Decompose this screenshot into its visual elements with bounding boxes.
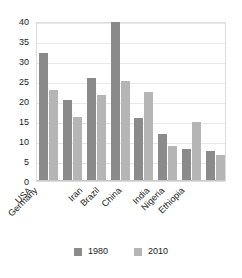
legend-label: 2010 [148,247,168,256]
bar-group [156,23,180,181]
bar [87,78,96,181]
bar [39,53,48,181]
y-tick-label: 20 [19,98,29,107]
bar [158,134,167,181]
y-tick-label: 40 [19,18,29,27]
y-tick-label: 10 [19,138,29,147]
y-tick-label: 5 [24,158,29,167]
chart-legend: 19802010 [0,247,242,256]
y-tick-label: 15 [19,118,29,127]
legend-item[interactable]: 2010 [134,247,168,256]
bar-group [61,23,85,181]
bar-group [37,23,61,181]
plot-area [36,22,226,182]
bar [216,155,225,181]
legend-label: 1980 [88,247,108,256]
y-tick-label: 30 [19,58,29,67]
bar [134,118,143,181]
x-axis-baseline [37,180,225,181]
legend-item[interactable]: 1980 [74,247,108,256]
bar [121,81,130,181]
x-tick-label: China [101,186,124,209]
bar-group [180,23,204,181]
bar [182,149,191,181]
bar [144,92,153,181]
bar-group [203,23,227,181]
y-tick-label: 25 [19,78,29,87]
y-axis: 0510152025303540 [0,22,32,182]
legend-swatch-icon [74,248,82,256]
bar [97,95,106,181]
bar [63,100,72,181]
bar [73,117,82,181]
bar-group [132,23,156,181]
y-tick-label: 35 [19,38,29,47]
bar-chart: 0510152025303540 USAGermanyIranBrazilChi… [0,0,242,278]
bar [192,122,201,181]
bar [206,151,215,181]
bar-group [85,23,109,181]
bar-group [108,23,132,181]
bar [49,90,58,181]
legend-swatch-icon [134,248,142,256]
x-axis: USAGermanyIranBrazilChinaIndiaNigeriaEth… [36,182,226,234]
bar [111,22,120,181]
bar [168,146,177,181]
